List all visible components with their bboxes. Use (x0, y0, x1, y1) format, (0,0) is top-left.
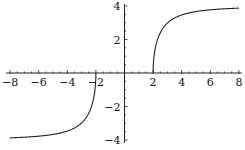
plot: −8−6−4−22468−4−224 (0, 0, 245, 150)
y-tick-label: −2 (104, 101, 120, 114)
y-tick-label: 2 (114, 34, 121, 47)
y-tick-label: −4 (104, 134, 120, 147)
x-tick-label: −4 (59, 76, 75, 89)
x-tick-label: −2 (88, 76, 104, 89)
y-tick-label: 4 (114, 0, 121, 13)
x-tick-label: 8 (235, 76, 242, 89)
x-tick-label: −6 (31, 76, 47, 89)
curve-right-branch (153, 8, 239, 73)
x-tick-label: 2 (150, 76, 157, 89)
curve-left-branch (10, 73, 96, 138)
x-tick-label: −8 (2, 76, 18, 89)
axes (6, 4, 242, 143)
x-tick-label: 4 (178, 76, 185, 89)
x-tick-label: 6 (207, 76, 214, 89)
